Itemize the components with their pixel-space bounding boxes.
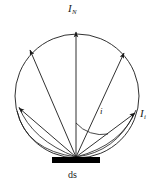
label-oblique-intensity-subscript: i [144, 113, 146, 120]
surface-element-ds [52, 157, 100, 163]
lambert-cosine-diagram [0, 0, 160, 189]
label-normal-intensity: IN [68, 3, 77, 16]
ray-right-upper [76, 53, 124, 157]
label-surface-element-ds: ds [68, 170, 77, 180]
label-angle-i: i [100, 107, 103, 116]
angle-arc-i [76, 123, 108, 135]
ray-left-lower [19, 108, 76, 157]
label-oblique-intensity: Ii [140, 108, 146, 121]
ray-left-upper [30, 50, 76, 157]
label-normal-intensity-subscript: N [72, 8, 77, 15]
figure-container: IN Ii i ds [0, 0, 160, 189]
ray-right-lower [76, 113, 135, 157]
